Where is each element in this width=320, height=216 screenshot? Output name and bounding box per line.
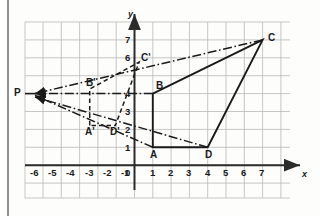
y-tick-1: 1 [125, 143, 130, 153]
x-tick-7: 7 [259, 168, 264, 178]
figure-canvas: -6 -5 -4 -3 -2 -1 0 1 2 3 4 5 6 7 7 6 4 … [0, 0, 320, 216]
point-label-C: C [268, 33, 275, 43]
point-label-B-prime: B' [86, 78, 96, 88]
x-tick--5: -5 [48, 168, 56, 178]
y-tick-3: 3 [125, 107, 130, 117]
y-tick-6: 6 [125, 53, 130, 63]
point-label-B: B [156, 81, 163, 91]
point-label-D: D [205, 150, 212, 160]
y-tick-2: 2 [125, 125, 130, 135]
x-tick-0: 0 [125, 168, 130, 178]
x-tick-5: 5 [223, 168, 228, 178]
y-tick-7: 7 [125, 35, 130, 45]
x-tick-1: 1 [150, 168, 155, 178]
ray-C-to-P [35, 40, 263, 94]
x-tick--4: -4 [66, 168, 74, 178]
y-tick-4: 4 [125, 89, 130, 99]
grid-lines [25, 22, 290, 198]
x-tick-4: 4 [205, 168, 210, 178]
point-label-A: A [150, 150, 157, 160]
point-label-P: P [14, 88, 21, 98]
y-axis-label: y [128, 10, 133, 19]
x-tick--2: -2 [103, 168, 111, 178]
x-tick--6: -6 [30, 168, 38, 178]
x-tick-3: 3 [186, 168, 191, 178]
x-tick--3: -3 [85, 168, 93, 178]
point-label-A-prime: A' [85, 127, 95, 137]
point-label-D-prime: D' [110, 127, 120, 137]
x-tick-2: 2 [168, 168, 173, 178]
point-label-C-prime: C' [141, 53, 151, 63]
x-tick-6: 6 [241, 168, 246, 178]
x-axis-label: x [302, 170, 307, 179]
